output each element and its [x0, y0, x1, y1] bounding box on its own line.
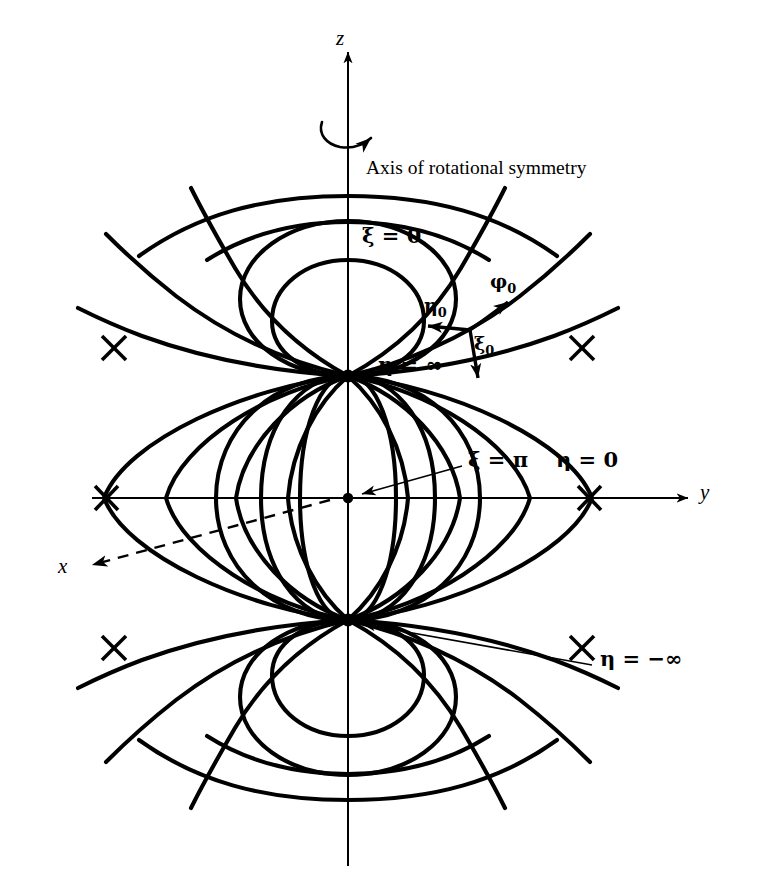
phi-unit-subscript: 0 [507, 281, 516, 296]
xi-zero-label: ξ = 0 [362, 225, 421, 246]
xi-unit-subscript: 0 [485, 343, 494, 358]
origin-point [343, 493, 353, 503]
eta-unit-vector-label: η0 [424, 296, 447, 320]
lower-focus-point [342, 614, 355, 627]
xi-curve [272, 260, 348, 376]
x-axis-label: x [58, 556, 67, 577]
coordinate-diagram [0, 0, 766, 887]
upper-focus-point [342, 370, 355, 383]
eta-zero-label: η = 0 [556, 449, 618, 470]
eta-unit-symbol: η [424, 294, 438, 316]
eta-unit-subscript: 0 [438, 305, 447, 320]
z-axis-label: z [336, 28, 344, 49]
xi-pi-leader [362, 466, 462, 494]
xi-curve [272, 620, 348, 736]
eta-infinity-label: η = ∞ [378, 354, 443, 375]
phi-unit-vector-label: φ0 [490, 272, 516, 296]
phi-unit-symbol: φ [490, 270, 507, 292]
eta-unit-vector-arrow [428, 326, 470, 330]
phi-unit-vector-arrow [470, 302, 508, 330]
rotational-symmetry-label: Axis of rotational symmetry [366, 158, 586, 178]
eta-minus-infinity-label: η = −∞ [600, 648, 683, 669]
xi-unit-vector-label: ξ0 [474, 334, 494, 358]
eta-minus-infinity-leader [362, 624, 592, 665]
figure-root: z y x Axis of rotational symmetry ξ = 0 … [0, 0, 766, 887]
rotation-arrow-icon [321, 122, 371, 148]
xi-pi-label: ξ = π [468, 449, 528, 470]
y-axis-label: y [700, 482, 709, 503]
xi-unit-symbol: ξ [474, 332, 485, 354]
xi-curve [348, 620, 424, 736]
